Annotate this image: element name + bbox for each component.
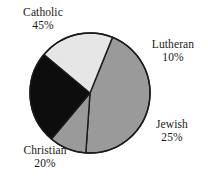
pie-chart: Catholic 45% Lutheran 10% Jewish 25% Chr…	[0, 0, 208, 180]
pie-label-jewish-name: Jewish	[140, 118, 204, 131]
pie-label-jewish-value: 25%	[140, 131, 204, 144]
pie-label-jewish: Jewish 25%	[140, 118, 204, 144]
pie-label-catholic-name: Catholic	[6, 6, 80, 19]
pie-label-christian-value: 20%	[4, 157, 86, 170]
pie-label-catholic-value: 45%	[6, 19, 80, 32]
pie-label-lutheran: Lutheran 10%	[140, 38, 206, 64]
pie-label-lutheran-value: 10%	[140, 51, 206, 64]
pie-label-lutheran-name: Lutheran	[140, 38, 206, 51]
pie-label-catholic: Catholic 45%	[6, 6, 80, 32]
pie-label-christian-name: Christian	[4, 144, 86, 157]
pie-label-christian: Christian 20%	[4, 144, 86, 170]
